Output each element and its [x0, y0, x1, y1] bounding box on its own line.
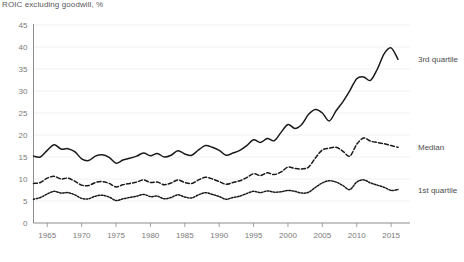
x-axis-tick-label: 1980: [142, 231, 160, 240]
x-axis-tick-label: 1990: [210, 231, 228, 240]
x-axis-tick-label: 1985: [176, 231, 194, 240]
y-axis-tick-label: 5: [23, 197, 28, 206]
y-axis-tick-label: 25: [19, 109, 28, 118]
y-axis-tick-label: 30: [19, 87, 28, 96]
y-axis-tick-label: 15: [19, 153, 28, 162]
series-line-1st-quartile: [34, 180, 399, 201]
x-axis-tick-label: 2010: [348, 231, 366, 240]
x-axis-tick-label: 1965: [38, 231, 56, 240]
roic-chart: ROIC excluding goodwill, % 0510152025303…: [0, 0, 464, 262]
series-line-3rd-quartile: [34, 48, 399, 163]
chart-plot-area: 0510152025303540451965197019751980198519…: [0, 0, 464, 262]
x-axis-tick-label: 1975: [107, 231, 125, 240]
y-axis-tick-label: 40: [19, 43, 28, 52]
x-axis-tick-label: 2015: [382, 231, 400, 240]
x-axis-tick-label: 2005: [313, 231, 331, 240]
x-axis-tick-label: 2000: [279, 231, 297, 240]
y-axis-tick-label: 10: [19, 175, 28, 184]
y-axis-tick-label: 45: [19, 21, 28, 30]
y-axis-tick-label: 35: [19, 65, 28, 74]
series-label-3rd-quartile: 3rd quartile: [418, 55, 459, 64]
y-axis-tick-label: 20: [19, 131, 28, 140]
x-axis-tick-label: 1995: [245, 231, 263, 240]
series-label-median: Median: [418, 143, 444, 152]
series-line-median: [34, 138, 399, 187]
x-axis-tick-label: 1970: [73, 231, 91, 240]
y-axis-tick-label: 0: [23, 219, 28, 228]
series-label-1st-quartile: 1st quartile: [418, 186, 458, 195]
